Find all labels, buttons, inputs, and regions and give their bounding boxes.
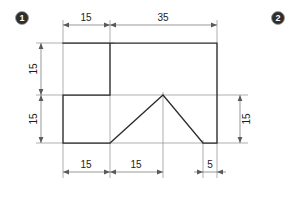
arrow-head-top-35-left xyxy=(110,23,116,28)
dim-text-top-35: 35 xyxy=(157,12,169,23)
arrow-head-right-15-bottom xyxy=(238,137,243,143)
arrow-head-bottom-5-right-end xyxy=(217,170,223,175)
dimension-top-15: 15 xyxy=(63,12,110,28)
dim-text-top-15: 15 xyxy=(80,12,92,23)
arrow-head-bottom-15-mid-end xyxy=(157,170,163,175)
arrow-head-bottom-15-mid-start xyxy=(110,170,116,175)
dimension-bottom-5-right: 5 xyxy=(194,159,226,175)
dimension-top-35: 35 xyxy=(110,12,217,28)
arrow-head-right-15-top xyxy=(238,95,243,101)
dim-text-left-15-upper: 15 xyxy=(28,63,39,75)
dim-text-bottom-15-mid: 15 xyxy=(130,159,142,170)
dimension-left-15-lower: 15 xyxy=(28,95,44,143)
marker-one: 1 xyxy=(16,12,29,25)
dim-text-bottom-15-left: 15 xyxy=(80,159,92,170)
dim-text-left-15-lower: 15 xyxy=(28,113,39,125)
marker-two-label: 2 xyxy=(275,13,280,23)
part-outline-group xyxy=(63,43,217,143)
arrow-head-bottom-5-right-start xyxy=(197,170,203,175)
extension-lines-group xyxy=(36,20,248,178)
part-outline-path xyxy=(63,43,217,143)
dimension-right-15: 15 xyxy=(238,95,252,143)
dimension-left-15-upper: 15 xyxy=(28,43,44,95)
dimension-bottom-15-left: 15 xyxy=(63,159,110,175)
dim-text-bottom-5-right: 5 xyxy=(207,159,213,170)
arrow-head-bottom-15-left-start xyxy=(63,170,69,175)
arrow-head-left-15-lower-bottom xyxy=(39,137,44,143)
technical-drawing-canvas: 15 35 15 15 5 xyxy=(0,0,297,200)
arrow-head-left-15-upper-top xyxy=(39,43,44,49)
arrow-head-left-15-lower-top xyxy=(39,95,44,101)
dimension-bottom-15-mid: 15 xyxy=(110,159,163,175)
arrow-head-top-15-right xyxy=(104,23,110,28)
dim-text-right-15: 15 xyxy=(241,113,252,125)
arrow-head-top-35-right xyxy=(211,23,217,28)
marker-two: 2 xyxy=(272,12,285,25)
marker-one-label: 1 xyxy=(19,13,24,23)
drawing-sheet: 15 35 15 15 5 xyxy=(0,0,297,200)
arrow-head-left-15-upper-bottom xyxy=(39,89,44,95)
arrow-head-bottom-15-left-end xyxy=(104,170,110,175)
arrow-head-top-15-left xyxy=(63,23,69,28)
